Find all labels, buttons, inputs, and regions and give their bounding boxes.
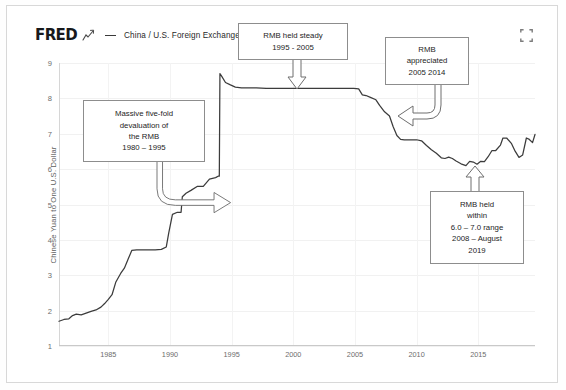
annotation-line: 1995 - 2005 [272,42,314,53]
y-axis-tick: 8 [48,94,59,103]
y-axis-tick: 3 [48,271,59,280]
y-axis-tick: 5 [48,200,59,209]
annotation-line: 6.0 – 7.0 range [451,222,503,233]
x-axis-tick: 2005 [347,350,363,359]
annotation-line: 2005 2014 [409,67,446,78]
y-axis-tick: 9 [48,59,59,68]
fred-logo: FRED [35,28,77,43]
annotation-line: 2019 [468,245,485,256]
annotation-steady: RMB held steady 1995 - 2005 [238,23,348,60]
x-axis-tick: 1995 [224,350,240,359]
x-axis-tick: 2010 [408,350,424,359]
legend-line-swatch [105,35,116,36]
y-axis-tick: 6 [48,165,59,174]
fred-squiggle-icon [82,29,96,42]
annotation-line: RMB held steady [263,30,322,41]
hollow-arrow-down-icon [285,59,309,91]
annotation-devaluation: Massive five-fold devaluation of the RMB… [83,100,205,162]
chart-header: FRED China / U.S. Foreign Exchange Rate [35,26,260,44]
y-axis-tick: 7 [48,129,59,138]
expand-fullscreen-icon[interactable] [520,29,533,42]
annotation-line: 2008 – August [452,233,502,244]
annotation-line: the RMB [129,131,159,142]
annotation-appreciated: RMB appreciated 2005 2014 [385,37,469,85]
x-axis-tick: 1990 [162,350,178,359]
y-axis-tick: 2 [48,306,59,315]
y-axis-tick: 1 [48,342,59,351]
fred-chart-screenshot: FRED China / U.S. Foreign Exchange Rate … [0,0,566,390]
annotation-range: RMB held within 6.0 – 7.0 range 2008 – A… [430,191,524,264]
x-axis-tick: 2000 [285,350,301,359]
hollow-arrow-up-icon [464,166,486,194]
annotation-line: appreciated [407,55,448,66]
annotation-line: 1980 – 1995 [122,142,165,153]
annotation-line: within [467,210,487,221]
annotation-line: Massive five-fold [115,108,173,119]
annotation-line: devaluation of [120,120,169,131]
curved-arrow-right-icon [157,158,247,220]
gridline-horizontal [59,346,535,347]
x-axis-tick: 2015 [470,350,486,359]
y-axis-tick: 4 [48,235,59,244]
annotation-line: RMB held [460,199,494,210]
chart-frame: FRED China / U.S. Foreign Exchange Rate … [6,5,558,383]
annotation-line: RMB [418,44,435,55]
curved-arrow-left-icon [395,83,447,129]
x-axis-tick: 1985 [100,350,116,359]
